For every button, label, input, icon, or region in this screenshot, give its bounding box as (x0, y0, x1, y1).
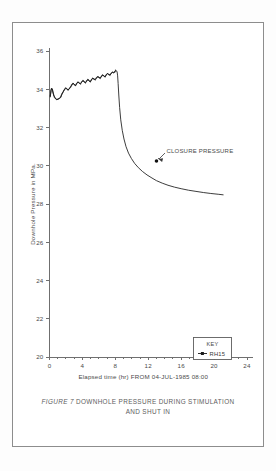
closure-pressure-arrow (158, 153, 165, 159)
y-tick-label: 26 (36, 239, 44, 246)
x-tick-label: 4 (81, 362, 85, 369)
y-axis-title: Downhole Pressure in MPa. (29, 163, 36, 245)
x-tick-label: 0 (48, 362, 52, 369)
figure-page: 20222426283032343604812162024 CLOSURE PR… (0, 0, 276, 471)
chart-tick-labels: 20222426283032343604812162024 (36, 47, 251, 368)
x-axis-title: Elapsed time (hr) FROM 04-JUL-1985 08:00 (78, 373, 208, 380)
pressure-curve-series (50, 70, 223, 195)
x-tick-label: 16 (178, 362, 186, 369)
key-sample-marker (201, 352, 204, 355)
closure-pressure-label: CLOSURE PRESSURE (166, 148, 233, 154)
y-tick-label: 28 (36, 200, 44, 207)
y-tick-label: 34 (36, 86, 44, 93)
y-tick-label: 22 (36, 315, 44, 322)
y-tick-label: 20 (36, 353, 44, 360)
pressure-curve (50, 70, 223, 195)
y-tick-label: 24 (36, 277, 44, 284)
x-tick-label: 12 (145, 362, 153, 369)
chart-tick-marks (46, 51, 247, 360)
y-tick-label: 30 (36, 162, 44, 169)
chart-axes (50, 48, 254, 357)
closure-pressure-annotation: CLOSURE PRESSURE (155, 148, 234, 163)
y-tick-label: 32 (36, 124, 44, 131)
closure-pressure-point (155, 159, 159, 163)
chart-key-box: KEYRH15 (194, 338, 232, 360)
pressure-curve-stimulation-noise-2 (50, 70, 115, 100)
y-tick-label: 36 (36, 47, 44, 54)
x-tick-label: 8 (114, 362, 118, 369)
figure-caption-text: DOWNHOLE PRESSURE DURING STIMULATION (76, 398, 234, 405)
figure-caption-line-2: AND SHUT IN (0, 408, 276, 415)
x-tick-label: 24 (243, 362, 251, 369)
figure-caption-line-1: FIGURE 7 DOWNHOLE PRESSURE DURING STIMUL… (0, 398, 276, 405)
key-series-label: RH15 (210, 351, 226, 357)
chart-axis-titles: Elapsed time (hr) FROM 04-JUL-1985 08:00… (29, 163, 209, 379)
x-tick-label: 20 (210, 362, 218, 369)
figure-caption-number: FIGURE 7 (42, 398, 74, 405)
key-title: KEY (207, 341, 219, 347)
